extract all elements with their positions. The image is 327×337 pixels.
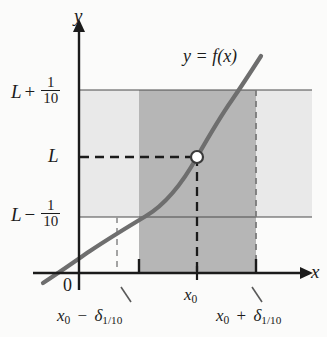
limit-definition-figure: y x 0 y = f(x) L + 1 10 L L − 1 10 x0 x0…	[0, 0, 327, 337]
x-tick-minus-operator: −	[78, 306, 88, 325]
x-tick-plus-base-subscript: 0	[224, 314, 230, 327]
x-tick-minus-base-subscript: 0	[65, 314, 71, 327]
curve-label: y = f(x)	[183, 47, 237, 65]
x-tick-plus-delta-subscript: 1/10	[261, 314, 281, 326]
x-tick-plus-operator: +	[237, 306, 247, 325]
y-tick-lower-base: L	[11, 205, 22, 224]
x-tick-minus-delta-subscript: 1/10	[102, 314, 122, 326]
x-axis-label: x	[311, 262, 319, 281]
y-axis-label: y	[74, 6, 82, 25]
y-tick-lower-fraction: 1 10	[41, 198, 60, 230]
delta-band	[139, 90, 256, 273]
y-tick-lower-operator: −	[25, 205, 36, 224]
y-tick-upper-base: L	[11, 82, 22, 101]
x-tick-label-x0-minus-delta: x0 − δ1/10	[57, 307, 122, 327]
x-tick-label-x0: x0	[184, 286, 197, 306]
open-point-marker	[191, 151, 203, 163]
y-tick-label-lower: L − 1 10	[11, 199, 60, 231]
x-tick-label-x0-plus-delta: x0 + δ1/10	[216, 307, 281, 327]
y-tick-label-upper: L + 1 10	[11, 76, 60, 108]
x-tick-x0-base: x	[184, 285, 192, 304]
leader-x0-minus-delta	[121, 287, 131, 302]
leader-x0-plus-delta	[252, 287, 262, 302]
x-tick-plus-base: x	[216, 306, 224, 325]
graph-canvas	[0, 0, 327, 337]
y-tick-upper-fraction: 1 10	[41, 75, 60, 107]
y-tick-lower-denominator: 10	[41, 213, 60, 229]
x-tick-minus-base: x	[57, 306, 65, 325]
y-tick-upper-operator: +	[25, 82, 36, 101]
y-tick-lower-numerator: 1	[45, 198, 57, 213]
origin-label: 0	[63, 276, 72, 294]
x-tick-x0-subscript: 0	[192, 293, 198, 306]
y-tick-upper-numerator: 1	[45, 75, 57, 90]
y-tick-upper-denominator: 10	[41, 90, 60, 106]
y-tick-label-middle: L	[48, 146, 59, 165]
